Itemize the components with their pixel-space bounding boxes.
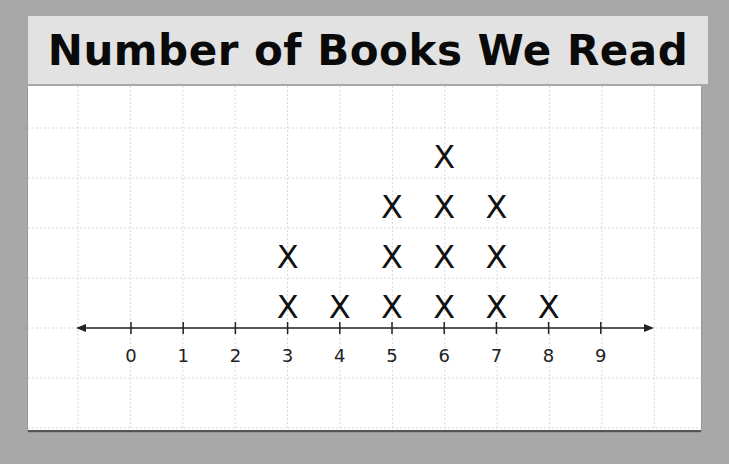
x-marker: X [277, 288, 299, 326]
line-plot: 0123XX4X5XXX6XXXX7XXX8X9 [28, 86, 701, 430]
x-marker: X [538, 288, 560, 326]
tick-label: 9 [595, 345, 606, 366]
chart-title: Number of Books We Read [48, 26, 688, 75]
x-marker: X [485, 238, 507, 276]
tick-label: 8 [543, 345, 554, 366]
chart-title-banner: Number of Books We Read [28, 16, 708, 84]
x-marker: X [277, 238, 299, 276]
tick-label: 2 [230, 345, 241, 366]
x-marker: X [485, 188, 507, 226]
x-marker: X [381, 238, 403, 276]
tick-label: 1 [177, 345, 188, 366]
x-marker: X [485, 288, 507, 326]
tick-label: 0 [125, 345, 136, 366]
tick-label: 5 [386, 345, 397, 366]
plot-panel: 0123XX4X5XXX6XXXX7XXX8X9 [28, 86, 701, 430]
x-marker: X [433, 138, 455, 176]
x-marker: X [381, 188, 403, 226]
x-marker: X [433, 188, 455, 226]
x-marker: X [381, 288, 403, 326]
tick-label: 7 [491, 345, 502, 366]
tick-label: 6 [438, 345, 449, 366]
tick-label: 3 [282, 345, 293, 366]
tick-label: 4 [334, 345, 345, 366]
x-marker: X [329, 288, 351, 326]
arrow-right-icon [644, 324, 654, 332]
x-marker: X [433, 288, 455, 326]
x-marker: X [433, 238, 455, 276]
